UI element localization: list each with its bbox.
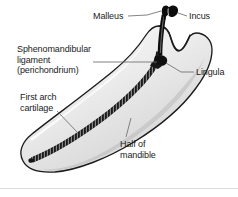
- cartilage-anterior-tip: [28, 158, 33, 163]
- incus-shape: [168, 5, 178, 17]
- label-lingula: Lingula: [196, 67, 224, 78]
- label-first-arch-cartilage: First arch cartilage: [20, 92, 57, 113]
- leader-malleus: [128, 11, 161, 16]
- anatomical-figure: Malleus Incus Sphenomandibular ligament …: [0, 0, 238, 197]
- leader-incus: [178, 13, 187, 16]
- label-half-of-mandible: Half of mandible: [120, 139, 156, 160]
- label-sphenomandibular-ligament: Sphenomandibular ligament (perichondrium…: [17, 44, 91, 76]
- label-malleus: Malleus: [93, 11, 123, 22]
- bottom-divider: [0, 188, 238, 189]
- malleus-and-incus-ossicles: [162, 5, 178, 20]
- label-incus: Incus: [189, 11, 210, 22]
